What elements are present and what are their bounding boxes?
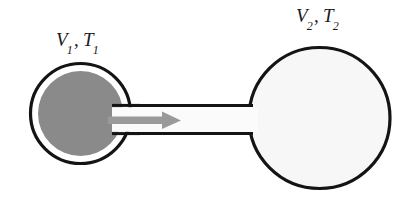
free-expansion-diagram: V1,T1 V2,T2 — [0, 0, 419, 201]
label-left-bulb: V1,T1 — [56, 30, 100, 53]
label-right-bulb: V2,T2 — [296, 6, 340, 29]
label-left-temperature-subscript: 1 — [93, 43, 99, 57]
label-left-volume-subscript: 1 — [67, 43, 73, 57]
empty-bulb — [249, 48, 390, 189]
label-right-temperature-subscript: 2 — [333, 19, 339, 33]
label-right-separator: , — [314, 5, 319, 26]
label-left-separator: , — [74, 29, 79, 50]
gas-fill — [38, 71, 123, 156]
label-right-volume-subscript: 2 — [307, 19, 313, 33]
